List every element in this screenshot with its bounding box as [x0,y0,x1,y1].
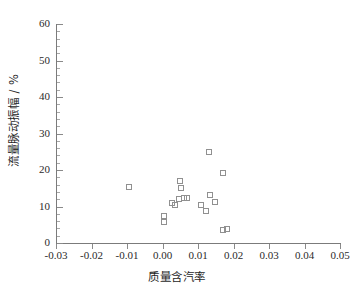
data-point-marker [198,202,204,208]
y-axis-tick-label: 60 [28,18,50,29]
x-axis-tick-label: 0.04 [285,249,325,261]
data-point-marker [212,199,218,205]
x-axis-tick-label: 0.02 [214,249,254,261]
data-point-marker [206,149,212,155]
data-point-marker [207,192,213,198]
data-point-marker [224,226,230,232]
x-axis-tick-label: 0.03 [249,249,289,261]
y-axis-tick-label: 30 [28,128,50,139]
x-axis-tick-label: 0.05 [320,249,354,261]
scatter-chart-figure: 0102030405060 -0.03-0.02-0.010.000.010.0… [0,0,354,292]
x-axis-tick-label: 0.00 [143,249,183,261]
data-point-marker [172,202,178,208]
y-axis-tick-label: 20 [28,164,50,175]
data-point-marker [184,195,190,201]
y-axis-title: 流量脉动振幅 / % [5,60,21,180]
plot-area [56,24,340,243]
data-point-marker [177,178,183,184]
x-axis-title: 质量含汽率 [0,268,354,284]
y-axis-tick [57,243,63,244]
x-axis-tick-label: -0.01 [107,249,147,261]
y-axis-tick-label: 50 [28,55,50,66]
y-axis-tick-label: 10 [28,201,50,212]
data-point-marker [178,185,184,191]
data-point-marker [161,219,167,225]
data-point-marker [203,208,209,214]
x-axis-tick-label: -0.02 [72,249,112,261]
data-point-marker [126,184,132,190]
data-point-marker [220,170,226,176]
x-axis-tick-label: -0.03 [36,249,76,261]
y-axis-tick-label: 0 [28,237,50,248]
x-axis-tick-label: 0.01 [178,249,218,261]
y-axis-tick-label: 40 [28,91,50,102]
